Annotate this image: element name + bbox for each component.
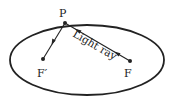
label-light-ray: Light ray (71, 27, 119, 62)
label-f: F (124, 67, 132, 80)
ellipse-reflection-diagram: P F F′ Light ray (0, 0, 174, 102)
focus-f (128, 59, 132, 63)
point-p (63, 21, 67, 25)
label-f-prime: F′ (37, 67, 48, 80)
focus-f-prime (41, 57, 45, 61)
label-p: P (59, 7, 67, 20)
